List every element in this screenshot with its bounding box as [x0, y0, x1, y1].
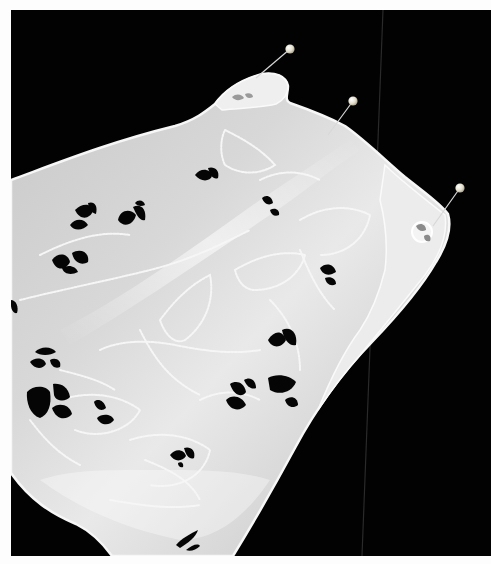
fabric-photo-svg — [11, 10, 491, 556]
pin-head-icon — [285, 44, 294, 53]
photograph — [11, 10, 491, 556]
hem-eyelet — [412, 222, 432, 242]
pin-head-icon — [348, 96, 357, 105]
photo-frame — [0, 0, 491, 564]
pin-head-icon — [455, 183, 464, 192]
